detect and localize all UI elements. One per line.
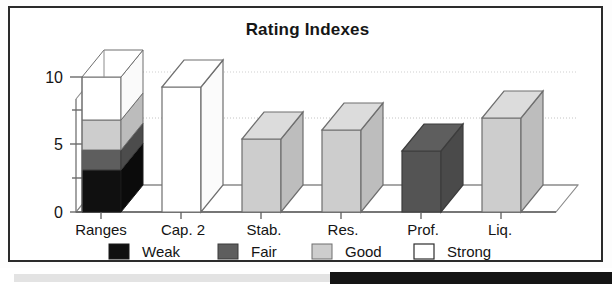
x-label-liq: Liq. — [488, 221, 512, 238]
scan-edge-artifact — [0, 268, 612, 284]
chart-screenshot: Rating Indexes — [0, 0, 612, 284]
scan-gray-band — [14, 274, 334, 282]
x-label-ranges: Ranges — [75, 221, 127, 238]
bar-ranges[interactable] — [82, 50, 143, 212]
bar-prof[interactable] — [402, 124, 463, 212]
chart-legend: Weak Fair Good Strong — [109, 243, 491, 260]
x-axis-labels: Ranges Cap. 2 Stab. Res. Prof. Liq. — [75, 221, 512, 238]
rating-indexes-bar-chart: 10 5 0 — [10, 8, 605, 260]
legend-label-fair: Fair — [251, 243, 277, 260]
bar-segment-strong — [82, 77, 121, 120]
bar-stab[interactable] — [242, 112, 303, 212]
bar-liq[interactable] — [482, 91, 543, 212]
bar-front-face — [162, 87, 201, 212]
x-label-prof: Prof. — [407, 221, 439, 238]
y-tick-5: 5 — [54, 136, 63, 153]
bar-segment-weak — [82, 170, 121, 212]
bar-segment-fair — [82, 150, 121, 170]
bar-res[interactable] — [322, 103, 383, 212]
bar-cap-2[interactable] — [162, 60, 223, 212]
bar-front-face — [322, 130, 361, 212]
legend-swatch-weak — [109, 244, 129, 259]
y-tick-10: 10 — [45, 69, 63, 86]
bar-front-face — [402, 151, 441, 212]
scan-dark-band — [330, 272, 612, 284]
legend-swatch-fair — [218, 244, 238, 259]
bar-front-face — [242, 139, 281, 212]
x-label-res: Res. — [328, 221, 359, 238]
legend-label-good: Good — [345, 243, 382, 260]
bar-segment-good — [82, 120, 121, 150]
chart-frame: Rating Indexes — [8, 6, 603, 262]
legend-label-strong: Strong — [447, 243, 491, 260]
bar-front-face — [482, 118, 521, 212]
legend-swatch-strong — [414, 244, 434, 259]
legend-swatch-good — [312, 244, 332, 259]
x-label-stab: Stab. — [246, 221, 281, 238]
legend-label-weak: Weak — [142, 243, 181, 260]
y-tick-0: 0 — [54, 204, 63, 221]
x-axis-ticks — [101, 212, 501, 219]
x-label-cap-2: Cap. 2 — [161, 221, 205, 238]
